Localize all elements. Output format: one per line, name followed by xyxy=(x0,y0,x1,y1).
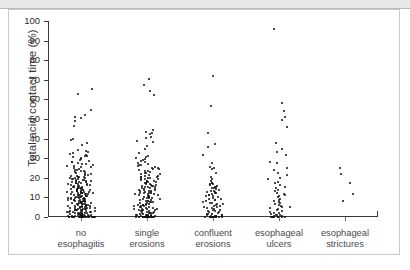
data-point xyxy=(139,199,141,201)
data-point xyxy=(207,146,209,148)
data-point xyxy=(144,172,146,174)
data-point xyxy=(273,169,275,171)
data-point xyxy=(159,198,161,200)
data-point xyxy=(202,154,204,156)
data-point xyxy=(206,191,208,193)
data-point xyxy=(87,216,89,218)
data-point xyxy=(211,213,213,215)
data-point xyxy=(145,204,147,206)
data-point xyxy=(138,216,140,218)
data-point xyxy=(209,216,211,218)
data-point xyxy=(276,162,278,164)
data-point xyxy=(281,210,283,212)
data-point xyxy=(276,151,278,153)
data-point xyxy=(77,162,79,164)
y-tick-label: 50 xyxy=(10,114,40,123)
y-tick-label-wrap: 20 xyxy=(8,173,40,174)
x-axis-category-label-line: confluent xyxy=(178,228,248,239)
y-tick-label: 90 xyxy=(10,36,40,45)
data-point xyxy=(144,158,146,160)
data-point xyxy=(139,202,141,204)
y-tick-label: 20 xyxy=(10,173,40,182)
data-point xyxy=(149,133,151,135)
data-point xyxy=(154,166,156,168)
data-point xyxy=(279,177,281,179)
data-point xyxy=(138,152,140,154)
data-point xyxy=(149,90,151,92)
data-point xyxy=(211,178,213,180)
data-point xyxy=(215,216,217,218)
data-point xyxy=(77,93,79,95)
data-point xyxy=(283,110,285,112)
data-point xyxy=(216,206,218,208)
y-tick-label: 10 xyxy=(10,192,40,201)
data-point xyxy=(147,163,149,165)
data-point xyxy=(141,212,143,214)
data-point xyxy=(277,216,279,218)
x-axis-category-label-line: esophagitis xyxy=(46,239,116,250)
data-point xyxy=(140,164,142,166)
data-point xyxy=(135,214,137,216)
data-point xyxy=(141,185,143,187)
y-tick-label: 30 xyxy=(10,153,40,162)
data-point xyxy=(154,215,156,217)
data-point xyxy=(70,139,72,141)
data-point xyxy=(281,206,283,208)
data-point xyxy=(133,205,135,207)
data-point xyxy=(276,209,278,211)
data-point xyxy=(77,176,79,178)
data-point xyxy=(152,201,154,203)
data-point xyxy=(86,195,88,197)
y-tick-label: 60 xyxy=(10,94,40,103)
data-point xyxy=(217,196,219,198)
data-point xyxy=(84,114,86,116)
data-point xyxy=(69,153,71,155)
data-point xyxy=(205,200,207,202)
data-point xyxy=(151,132,153,134)
data-point xyxy=(86,155,88,157)
y-tick-label: 70 xyxy=(10,75,40,84)
data-point xyxy=(138,169,140,171)
data-point xyxy=(87,174,89,176)
data-point xyxy=(80,170,82,172)
data-point xyxy=(209,183,211,185)
data-point xyxy=(154,189,156,191)
y-tick-label-wrap: 100 xyxy=(8,16,40,17)
x-axis-category-label-line: esophageal xyxy=(310,228,380,239)
data-point xyxy=(147,155,149,157)
data-point xyxy=(284,116,286,118)
data-point xyxy=(212,75,214,77)
x-axis-category-label-line: single xyxy=(112,228,182,239)
data-point xyxy=(144,148,146,150)
data-point xyxy=(89,207,91,209)
data-point xyxy=(277,189,279,191)
data-point xyxy=(152,141,154,143)
data-point xyxy=(143,188,145,190)
data-point xyxy=(214,143,216,145)
data-point xyxy=(152,129,154,131)
data-point xyxy=(340,173,342,175)
data-point xyxy=(140,176,142,178)
data-point xyxy=(71,181,73,183)
data-point xyxy=(222,203,224,205)
y-tick-label-wrap: 0 xyxy=(8,212,40,213)
data-point xyxy=(140,179,142,181)
data-point xyxy=(211,202,213,204)
data-point xyxy=(208,198,210,200)
data-point xyxy=(135,216,137,218)
data-point xyxy=(208,194,210,196)
data-point xyxy=(91,88,93,90)
data-point xyxy=(148,203,150,205)
data-point xyxy=(78,216,80,218)
data-point xyxy=(211,162,213,164)
data-point xyxy=(148,216,150,218)
data-point xyxy=(286,174,288,176)
data-point xyxy=(92,164,94,166)
data-point xyxy=(90,180,92,182)
y-tick-label: 100 xyxy=(10,16,40,25)
data-point xyxy=(85,205,87,207)
data-point xyxy=(140,160,142,162)
x-axis-labels: noesophagitissingleerosionsconfluenteros… xyxy=(48,228,378,254)
data-point xyxy=(274,182,276,184)
data-point xyxy=(90,109,92,111)
